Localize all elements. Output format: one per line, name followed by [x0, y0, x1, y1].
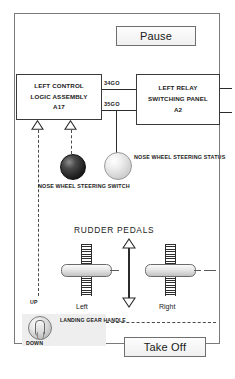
pause-button-label: Pause	[140, 30, 172, 42]
lcla-line-1: LEFT CONTROL	[34, 81, 84, 92]
switch-caption-line-2: STEERING	[77, 183, 106, 189]
lrsp-line-2: SWITCHING PANEL	[148, 94, 208, 105]
nose-wheel-steering-switch-caption: NOSE WHEEL STEERING SWITCH	[38, 181, 106, 192]
left-pedal-bar[interactable]	[61, 264, 112, 277]
gear-caption-line-2: GEAR	[86, 317, 102, 323]
status-caption-line-3: STATUS	[204, 154, 226, 160]
linkage-arrowhead-right	[64, 120, 77, 130]
pause-button[interactable]: Pause	[116, 26, 196, 46]
nose-wheel-steering-status-caption: NOSE WHEEL STEERING STATUS	[134, 152, 196, 163]
left-pedal-axis-tick	[110, 270, 119, 271]
landing-gear-handle-caption: LANDING GEAR HANDLE	[60, 315, 126, 325]
nose-wheel-steering-switch-lamp[interactable]	[60, 154, 86, 180]
left-pedal-label: Left	[76, 303, 88, 310]
gear-linkage-dashed-line	[106, 322, 216, 323]
pedal-travel-arrow-down	[122, 297, 136, 308]
lcla-line-2: LOGIC ASSEMBLY	[31, 92, 88, 103]
right-pedal-axis-tick-b	[204, 270, 216, 271]
relay-panel-stub-upper	[220, 88, 232, 89]
nose-wheel-steering-status-lamp	[104, 152, 132, 180]
left-control-logic-assembly-block: LEFT CONTROL LOGIC ASSEMBLY A17	[16, 74, 102, 120]
switch-caption-line-1: NOSE WHEEL	[38, 183, 76, 189]
left-relay-switching-panel-block: LEFT RELAY SWITCHING PANEL A2	[136, 74, 220, 125]
pedal-travel-arrow-stem	[128, 245, 129, 301]
gear-up-label: UP	[30, 297, 38, 307]
gear-caption-line-1: LANDING	[60, 317, 85, 323]
wire-label-35go: 35GO	[104, 101, 120, 107]
pedal-travel-arrow-up	[122, 238, 136, 249]
linkage-arrowhead-left	[31, 120, 44, 130]
right-pedal-bar[interactable]	[145, 264, 196, 277]
relay-panel-stub-lower	[220, 112, 232, 113]
take-off-button[interactable]: Take Off	[124, 337, 206, 357]
status-caption-line-1: NOSE WHEEL	[134, 154, 172, 160]
switch-caption-line-3: SWITCH	[108, 183, 130, 189]
lrsp-line-1: LEFT RELAY	[158, 83, 197, 94]
diagram-canvas: Pause LEFT CONTROL LOGIC ASSEMBLY A17 LE…	[0, 0, 235, 379]
lrsp-line-3: A2	[174, 105, 182, 116]
rudder-pedals-title: RUDDER PEDALS	[74, 225, 154, 235]
linkage-dashed-line-switch	[71, 130, 72, 154]
status-caption-line-2: STEERING	[173, 154, 202, 160]
gear-down-label: DOWN	[26, 338, 43, 348]
linkage-dashed-line-gear	[38, 130, 39, 296]
lcla-line-3: A17	[53, 102, 65, 113]
wire-34go	[102, 89, 136, 90]
right-pedal-label: Right	[159, 303, 175, 310]
take-off-button-label: Take Off	[144, 341, 186, 353]
wire-to-status-lamp	[116, 110, 117, 155]
wire-label-34go: 34GO	[104, 80, 120, 86]
right-pedal-axis-tick-a	[194, 270, 201, 271]
wire-35go	[102, 110, 136, 111]
